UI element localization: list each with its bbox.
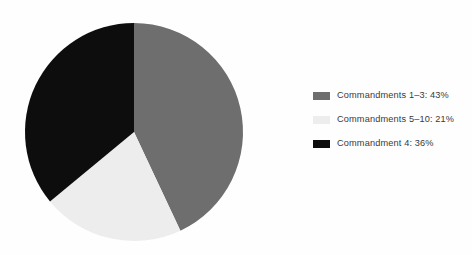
legend-swatch-icon [313,116,330,124]
legend-item[interactable]: Commandments 5–10: 21% [313,108,463,132]
pie-slice-group [25,23,243,241]
legend-item[interactable]: Commandment 4: 36% [313,132,463,156]
pie-chart-figure: Commandments 1–3: 43% Commandments 5–10:… [0,0,472,255]
legend-item-label: Commandment 4: 36% [337,139,434,148]
pie-svg [0,0,270,255]
legend-item-label: Commandments 1–3: 43% [337,91,449,100]
legend-swatch-icon [313,140,330,148]
chart-legend: Commandments 1–3: 43% Commandments 5–10:… [313,84,463,156]
legend-item[interactable]: Commandments 1–3: 43% [313,84,463,108]
pie-plot-area [0,0,270,255]
legend-swatch-icon [313,92,330,100]
legend-item-label: Commandments 5–10: 21% [337,115,454,124]
